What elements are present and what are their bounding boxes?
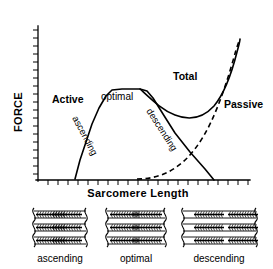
force-length-figure: FORCE Sarcomere Length Active optimal as… [0,0,273,269]
sarcomere-ascending: ascending [33,208,88,264]
sarcomere-optimal: optimal [106,208,167,264]
sarcomere-descending: descending [182,208,258,264]
sarcomere-caption-optimal: optimal [120,253,152,264]
sarcomere-caption-descending: descending [193,253,244,264]
sarcomere-diagrams: ascending optimal [0,0,273,269]
sarcomere-caption-ascending: ascending [37,253,83,264]
